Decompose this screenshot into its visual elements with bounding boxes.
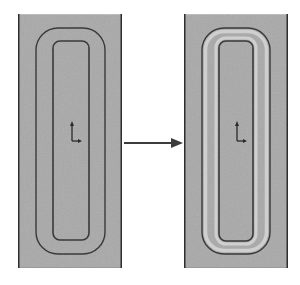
transform-arrow-icon bbox=[124, 138, 183, 148]
panel-before bbox=[18, 14, 122, 268]
panel-surface bbox=[184, 14, 288, 268]
diagram-canvas bbox=[0, 0, 300, 285]
panel-surface bbox=[18, 14, 122, 268]
arrow-head-icon bbox=[171, 138, 183, 148]
panel-after bbox=[184, 14, 288, 268]
diagram-svg bbox=[0, 0, 300, 285]
